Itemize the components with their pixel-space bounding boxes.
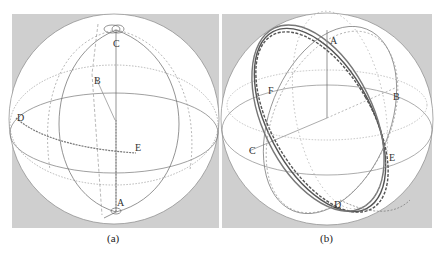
- point-label-e-b: E: [389, 153, 395, 163]
- caption-a: (a): [107, 232, 119, 244]
- sphere-diagrams: [0, 0, 442, 253]
- sphere-b: [221, 4, 433, 234]
- point-label-d: D: [17, 113, 24, 123]
- point-label-d-b: D: [334, 200, 341, 210]
- point-label-f-b: F: [268, 86, 274, 96]
- point-label-b: B: [94, 76, 101, 86]
- point-label-c-b: C: [249, 146, 256, 156]
- point-label-b-b: B: [393, 92, 400, 102]
- point-label-c: C: [113, 39, 120, 49]
- point-label-a-b: A: [330, 36, 337, 46]
- point-label-a: A: [117, 198, 124, 208]
- point-label-e: E: [135, 143, 141, 153]
- caption-b: (b): [320, 232, 333, 244]
